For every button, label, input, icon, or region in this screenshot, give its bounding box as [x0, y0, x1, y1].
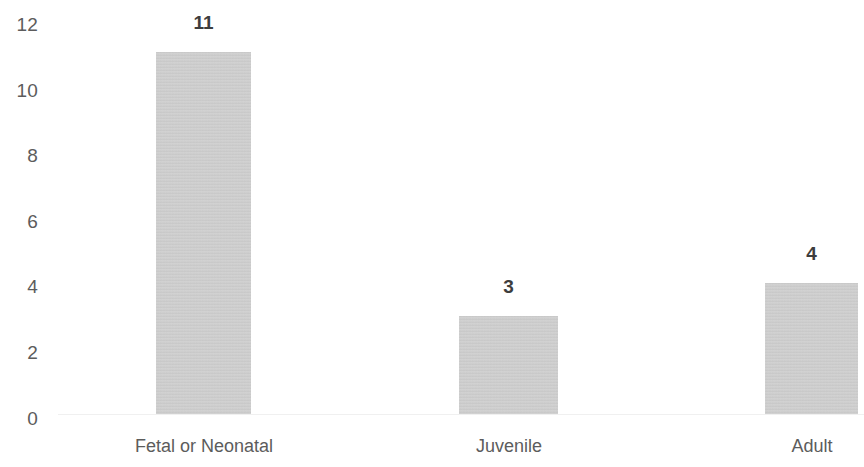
bar-value-label: 4 [765, 244, 858, 263]
category-label-fetal-or-neonatal: Fetal or Neonatal [108, 437, 300, 455]
bar-juvenile [459, 316, 558, 414]
bar-value-label: 11 [156, 13, 251, 32]
bar-adult [765, 283, 858, 414]
category-label-juvenile: Juvenile [455, 437, 563, 455]
bar-value-label: 3 [459, 277, 558, 296]
x-axis-line [58, 414, 864, 415]
plot-area: 11 Fetal or Neonatal 3 Juvenile 4 Adult [0, 0, 864, 467]
bar-chart: 12 10 8 6 4 2 0 11 Fetal or Neonatal 3 J… [0, 0, 864, 467]
category-label-adult: Adult [762, 437, 862, 455]
bar-fetal-or-neonatal [156, 52, 251, 414]
